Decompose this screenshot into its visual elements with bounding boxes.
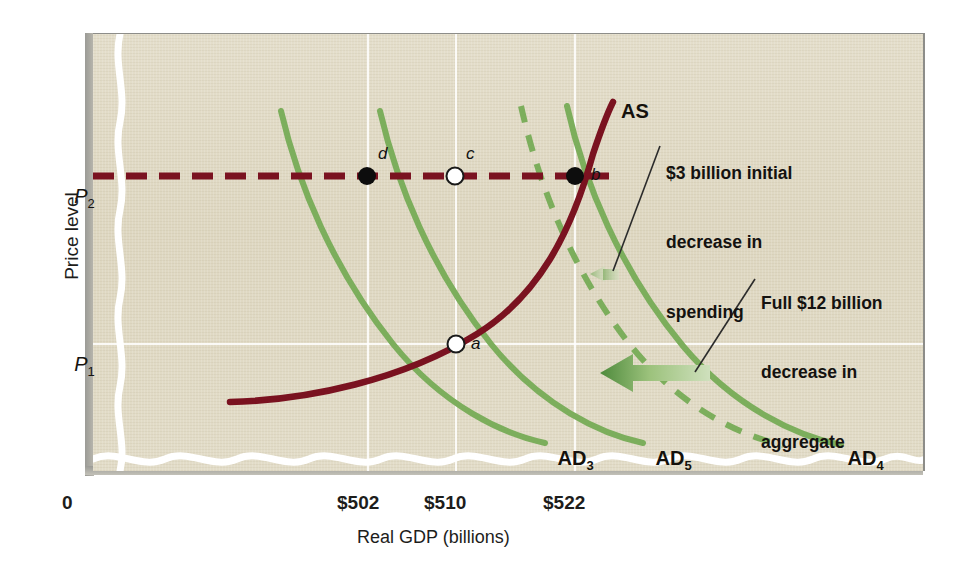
curve-label-ad3-sub: 3 [587, 458, 594, 471]
y-tick-p1-sub: 1 [88, 364, 95, 379]
leader-line-initial [613, 146, 660, 271]
point-b [566, 167, 584, 185]
curve-label-as: AS [621, 100, 649, 123]
point-label-b: b [591, 165, 600, 185]
x-tick-502: $502 [337, 492, 379, 514]
x-tick-510: $510 [424, 492, 466, 514]
x-tick-522: $522 [543, 492, 585, 514]
y-tick-p1-base: P [74, 353, 87, 375]
point-label-a: a [471, 334, 480, 354]
annotation-initial-line1: $3 billion initial [666, 162, 792, 185]
point-d [358, 167, 376, 185]
annotation-full-line1: Full $12 billion [761, 292, 883, 315]
x-axis-title: Real GDP (billions) [357, 527, 510, 548]
point-c [447, 168, 464, 185]
point-label-c: c [466, 144, 475, 164]
plot-area: d c b a AS AD3 AD5 AD4 $3 billion initia… [93, 33, 925, 471]
y-axis-title: Price level [61, 156, 83, 316]
curve-label-ad3-base: AD [558, 447, 587, 469]
point-a [448, 336, 465, 353]
point-label-d: d [378, 144, 387, 164]
curve-as [230, 102, 613, 402]
curve-label-ad5-base: AD [656, 447, 685, 469]
annotation-full-line2: decrease in [761, 361, 883, 384]
origin-label: 0 [62, 492, 73, 514]
axis-break-vertical [118, 34, 122, 471]
annotation-full-decrease: Full $12 billion decrease in aggregate d… [761, 245, 883, 471]
curve-label-ad5-sub: 5 [685, 458, 692, 471]
y-tick-p1: P1 [52, 330, 95, 402]
curve-label-ad5: AD5 [623, 424, 692, 471]
curve-label-ad3: AD3 [525, 424, 594, 471]
annotation-full-line3: aggregate [761, 431, 883, 454]
chart-figure: d c b a AS AD3 AD5 AD4 $3 billion initia… [0, 0, 953, 573]
y-tick-p2-sub: 2 [88, 196, 95, 211]
